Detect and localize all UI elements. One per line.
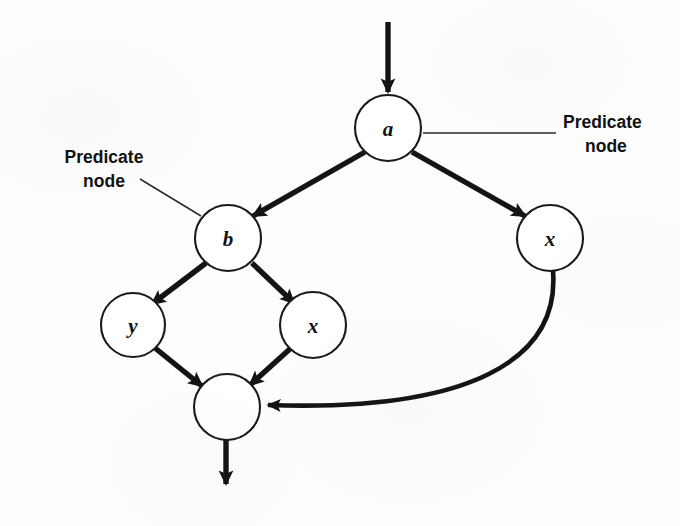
left-annotation-line1: Predicate <box>65 147 144 167</box>
node-merge-circle[interactable] <box>194 374 260 440</box>
node-layer: a b x y x <box>101 95 583 440</box>
node-a-circle[interactable] <box>355 95 421 161</box>
node-merge[interactable] <box>194 374 260 440</box>
right-annotation-line1: Predicate <box>563 112 642 132</box>
edge-b-to-x-low <box>252 263 294 303</box>
node-a[interactable]: a <box>355 95 421 161</box>
edge-y-to-merge <box>155 348 202 386</box>
flow-graph-canvas: a b x y x <box>0 0 680 526</box>
annotation-layer: Predicate node Predicate node <box>65 112 642 216</box>
node-y[interactable]: y <box>101 293 165 357</box>
node-x-right[interactable]: x <box>517 205 583 271</box>
edge-b-to-y <box>152 263 206 304</box>
right-annotation-line2: node <box>585 136 627 156</box>
edge-a-to-x-right <box>412 152 525 216</box>
node-y-circle[interactable] <box>101 293 165 357</box>
edge-a-to-b <box>253 152 365 216</box>
node-x-right-circle[interactable] <box>517 205 583 271</box>
node-b[interactable]: b <box>195 205 261 271</box>
node-x-low-circle[interactable] <box>280 292 346 358</box>
edge-x-low-to-merge <box>250 348 291 385</box>
flow-graph-figure: a b x y x <box>0 0 680 526</box>
left-annotation-leader-line <box>140 179 201 216</box>
node-b-circle[interactable] <box>195 205 261 271</box>
left-annotation-line2: node <box>83 171 125 191</box>
node-x-low[interactable]: x <box>280 292 346 358</box>
